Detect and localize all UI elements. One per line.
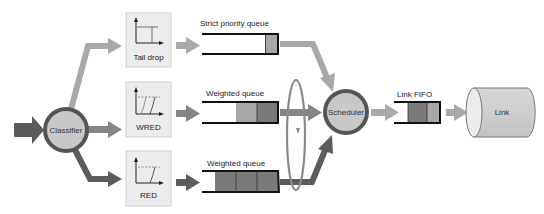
input-arrow bbox=[14, 116, 44, 144]
strict-priority-queue bbox=[202, 33, 279, 55]
packet bbox=[257, 103, 278, 123]
arrow-fifo-to-link bbox=[446, 104, 468, 121]
link-cylinder: Link bbox=[466, 88, 535, 137]
link-fifo-queue bbox=[394, 101, 441, 124]
arrow-scheduler-to-fifo bbox=[371, 104, 399, 121]
arrow-classifier-to-taildrop bbox=[70, 38, 122, 113]
arrow-strict-queue-to-scheduler bbox=[280, 44, 335, 92]
classifier-node: Classifier bbox=[45, 109, 87, 151]
weighted-queue-1 bbox=[202, 101, 279, 124]
arrow-wred-to-queue bbox=[176, 105, 200, 122]
weighted-queue-2-label: Weighted queue bbox=[207, 159, 266, 168]
scheduler-label: Scheduler bbox=[328, 108, 364, 117]
packet bbox=[266, 34, 278, 54]
strict-priority-queue-label: Strict priority queue bbox=[200, 19, 269, 28]
link-fifo-label: Link FIFO bbox=[397, 90, 432, 99]
wred-box: WRED bbox=[126, 82, 171, 137]
wred-label: WRED bbox=[136, 123, 161, 132]
classifier-label: Classifier bbox=[50, 126, 83, 135]
packet bbox=[215, 172, 236, 192]
arrow-red-to-queue bbox=[176, 174, 200, 191]
qos-diagram: Classifier Tail drop WRED bbox=[0, 0, 544, 214]
arrow-taildrop-to-queue bbox=[176, 37, 200, 54]
tail-drop-label: Tail drop bbox=[133, 53, 164, 62]
link-label: Link bbox=[495, 108, 511, 117]
packet bbox=[236, 103, 257, 123]
packet bbox=[236, 172, 257, 192]
scheduler-node: Scheduler bbox=[325, 91, 367, 133]
weighted-queue-2 bbox=[202, 170, 279, 193]
arrow-classifier-to-red bbox=[74, 148, 122, 187]
red-label: RED bbox=[140, 191, 157, 200]
packet bbox=[408, 103, 427, 122]
tail-drop-box: Tail drop bbox=[126, 13, 171, 67]
weighted-queue-1-label: Weighted queue bbox=[206, 89, 265, 98]
red-box: RED bbox=[126, 151, 171, 206]
packet bbox=[427, 103, 439, 122]
round-robin-cycle-icon bbox=[287, 80, 305, 190]
packet bbox=[257, 172, 278, 192]
arrow-classifier-to-wred bbox=[88, 121, 122, 138]
